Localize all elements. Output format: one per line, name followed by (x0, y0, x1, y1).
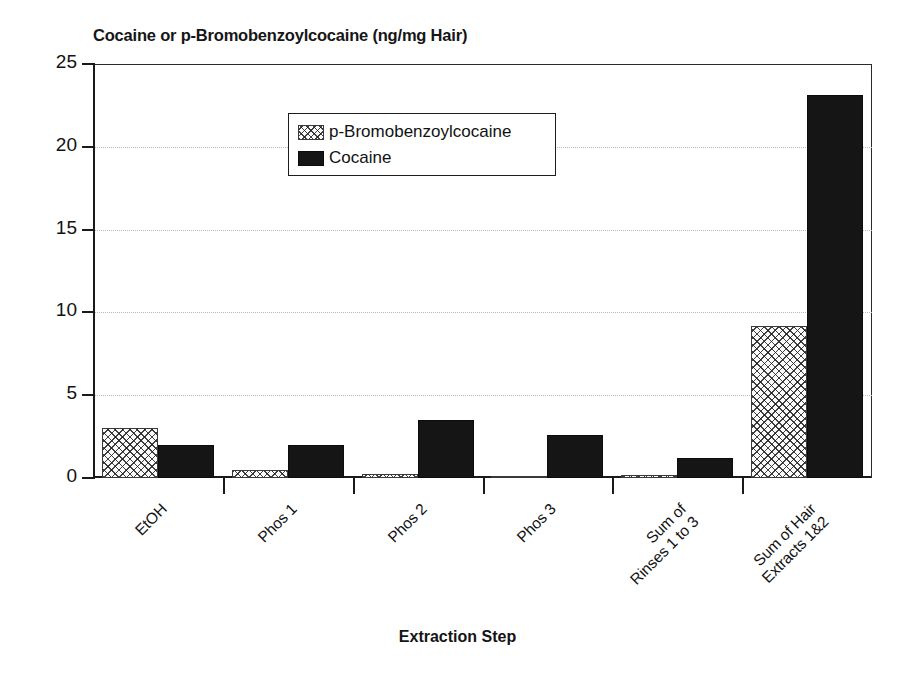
chart-legend: p-Bromobenzoylcocaine Cocaine (288, 113, 556, 176)
x-axis-tick-label-2: Phos 2 (283, 500, 430, 647)
legend-item-cocaine: Cocaine (298, 145, 555, 171)
x-axis-tick (223, 478, 225, 494)
y-axis-tick (82, 63, 95, 65)
y-axis-tick (82, 146, 95, 148)
bar-cocaine-3 (547, 435, 603, 478)
x-axis-tick (612, 478, 614, 494)
bar-pbbc-2 (362, 474, 418, 478)
y-axis-tick (82, 229, 95, 231)
legend-label-pbbc: p-Bromobenzoylcocaine (329, 122, 511, 142)
y-axis-tick-label: 20 (22, 134, 77, 156)
y-axis-tick (82, 311, 95, 313)
gridline (95, 312, 872, 313)
x-axis-tick (353, 478, 355, 494)
gridline (95, 230, 872, 231)
bar-pbbc-0 (102, 428, 158, 478)
bar-cocaine-2 (418, 420, 474, 478)
y-axis-tick-label: 25 (22, 51, 77, 73)
x-axis-tick (483, 478, 485, 494)
legend-item-pbbc: p-Bromobenzoylcocaine (298, 119, 555, 145)
x-axis-title: Extraction Step (0, 628, 915, 646)
bar-pbbc-1 (232, 470, 288, 478)
x-axis-tick-label-0: EtOH (24, 500, 171, 647)
bar-cocaine-4 (677, 458, 733, 478)
bar-pbbc-4 (621, 475, 677, 478)
y-axis-tick-label: 15 (22, 217, 77, 239)
bar-cocaine-5 (807, 95, 863, 478)
y-axis-tick-label: 5 (22, 382, 77, 404)
bar-cocaine-1 (288, 445, 344, 478)
x-axis-tick-label-1: Phos 1 (153, 500, 300, 647)
y-axis-tick (82, 477, 95, 479)
bar-cocaine-0 (158, 445, 214, 478)
legend-label-cocaine: Cocaine (329, 148, 391, 168)
bar-chart: Cocaine or p-Bromobenzoylcocaine (ng/mg … (0, 0, 915, 681)
x-axis-tick (742, 478, 744, 494)
bar-pbbc-3 (491, 476, 547, 478)
black-swatch-icon (298, 151, 324, 166)
y-axis-tick (82, 394, 95, 396)
y-axis-tick-label: 0 (22, 465, 77, 487)
crosshatch-swatch-icon (298, 125, 324, 140)
bar-pbbc-5 (751, 326, 807, 478)
chart-title: Cocaine or p-Bromobenzoylcocaine (ng/mg … (93, 26, 467, 45)
y-axis-tick-label: 10 (22, 299, 77, 321)
x-axis-tick-label-3: Phos 3 (413, 500, 560, 647)
